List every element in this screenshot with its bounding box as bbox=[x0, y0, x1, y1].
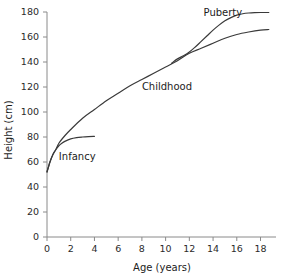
y-tick-label: 160 bbox=[21, 31, 39, 42]
y-tick-label: 120 bbox=[21, 81, 39, 92]
x-tick-label: 16 bbox=[231, 243, 243, 254]
y-axis-ticks: 020406080100120140160180 bbox=[21, 6, 47, 242]
chart-curves bbox=[47, 12, 269, 172]
x-axis-ticks: 024681012141618 bbox=[44, 237, 267, 254]
x-tick-label: 4 bbox=[91, 243, 97, 254]
y-tick-label: 40 bbox=[27, 181, 39, 192]
chart-annotations: InfancyChildhoodPuberty bbox=[59, 7, 242, 162]
x-tick-label: 12 bbox=[183, 243, 195, 254]
y-axis-title: Height (cm) bbox=[3, 100, 14, 159]
x-tick-label: 18 bbox=[254, 243, 266, 254]
y-tick-label: 140 bbox=[21, 56, 39, 67]
x-tick-label: 2 bbox=[68, 243, 74, 254]
growth-chart: 020406080100120140160180 024681012141618… bbox=[0, 0, 283, 276]
x-tick-label: 0 bbox=[44, 243, 50, 254]
x-tick-label: 6 bbox=[115, 243, 121, 254]
annotation-childhood: Childhood bbox=[142, 81, 192, 92]
y-tick-label: 80 bbox=[27, 131, 39, 142]
y-tick-label: 20 bbox=[27, 206, 39, 217]
y-tick-label: 60 bbox=[27, 156, 39, 167]
annotation-puberty: Puberty bbox=[204, 7, 243, 18]
annotation-infancy: Infancy bbox=[59, 151, 96, 162]
x-axis-title: Age (years) bbox=[133, 262, 191, 273]
chart-plot-area: 020406080100120140160180 024681012141618… bbox=[0, 0, 283, 276]
x-tick-label: 14 bbox=[207, 243, 219, 254]
y-tick-label: 180 bbox=[21, 6, 39, 17]
x-tick-label: 8 bbox=[139, 243, 145, 254]
y-tick-label: 100 bbox=[21, 106, 39, 117]
x-tick-label: 10 bbox=[160, 243, 172, 254]
y-tick-label: 0 bbox=[33, 231, 39, 242]
